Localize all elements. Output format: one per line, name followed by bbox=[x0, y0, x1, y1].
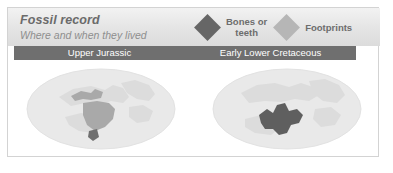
maps-row bbox=[8, 60, 380, 157]
map-panel-upper-jurassic bbox=[8, 60, 194, 157]
legend-item-label: Footprints bbox=[305, 22, 352, 33]
fossil-record-card: Fossil record Where and when they lived … bbox=[7, 7, 379, 157]
diamond-icon bbox=[194, 14, 221, 41]
card-header: Fossil record Where and when they lived … bbox=[8, 8, 380, 46]
globe-map-upper-jurassic bbox=[25, 67, 177, 151]
period-label-early-lower-cretaceous: Early Lower Cretaceous bbox=[185, 46, 356, 60]
legend-item-footprints: Footprints bbox=[277, 8, 352, 46]
period-bar-row: Upper Jurassic Early Lower Cretaceous bbox=[14, 46, 356, 60]
period-label-upper-jurassic: Upper Jurassic bbox=[14, 46, 185, 60]
globe-map-early-lower-cretaceous bbox=[211, 67, 363, 151]
legend-item-bones-or-teeth: Bones or teeth bbox=[198, 8, 267, 46]
map-panel-early-lower-cretaceous bbox=[194, 60, 380, 157]
page-title: Fossil record bbox=[20, 13, 200, 28]
title-block: Fossil record Where and when they lived bbox=[20, 13, 200, 42]
diamond-icon bbox=[273, 14, 300, 41]
legend-item-label: Bones or teeth bbox=[226, 16, 267, 38]
page-subtitle: Where and when they lived bbox=[20, 28, 200, 42]
legend: Bones or teeth Footprints bbox=[198, 8, 352, 46]
